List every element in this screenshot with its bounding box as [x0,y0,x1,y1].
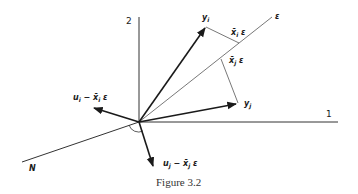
y-i-label: yi [202,13,210,23]
u-j-residual-label: uj − x̄j ε [163,159,198,170]
x-i-eps-label: x̄i ε [230,28,246,38]
u-j-residual-vector [139,122,153,166]
axis-1-label: 1 [326,109,332,119]
n-line [22,122,139,162]
epsilon-line [139,17,272,122]
n-label: N [29,164,36,173]
x-j-eps-label: x̄j ε [228,56,244,67]
y-j-label: yj [244,99,252,110]
epsilon-label: ε [275,12,280,21]
u-i-residual-label: ui − x̄i ε [73,93,108,103]
u-i-residual-vector [94,108,139,122]
figure-3-2-diagram: 2 1 ε N yi x̄i ε yj x̄j ε ui − x̄i ε uj … [0,0,358,194]
axis-2-label: 2 [126,16,132,26]
figure-caption: Figure 3.2 [156,176,201,188]
y-j-vector [139,104,236,122]
y-i-vector [139,28,205,122]
